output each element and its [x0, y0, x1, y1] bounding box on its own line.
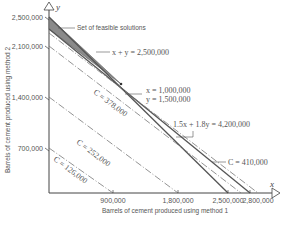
y-ticks: 2,500,000 2,100,000 1,400,000 700,000: [12, 14, 49, 152]
cost126-label: C = 126,000: [52, 154, 89, 185]
y-axis-arrow-icon: [44, 2, 54, 10]
constraint1-label: x + y = 2,500,000: [112, 48, 169, 57]
optimum-x-label: x = 1,000,000: [146, 86, 191, 95]
cost252-label: C = 252,000: [75, 137, 112, 168]
x-tick-label: 2,800,000: [242, 197, 273, 204]
y-tick-label: 2,100,000: [12, 43, 43, 50]
x-tick-label: 1,800,000: [162, 197, 193, 204]
y-tick-label: 2,500,000: [12, 14, 43, 21]
y-axis-title: Barrels of cement produced using method …: [4, 47, 12, 173]
constraint-line-1: [49, 17, 228, 193]
x-tick-label: 2,500,000: [212, 197, 243, 204]
x-axis-symbol: x: [269, 179, 274, 189]
x-tick-label: 900,000: [100, 197, 125, 204]
optimum-point: [120, 83, 123, 86]
x-ticks: 900,000 1,800,000 2,500,000 2,800,000: [100, 190, 273, 204]
cost410-label: C = 410,000: [228, 158, 268, 167]
iso-cost-410000: [49, 33, 258, 193]
y-tick-label: 700,000: [18, 145, 43, 152]
x-axis-title: Barrels of cement produced using method …: [102, 207, 228, 215]
optimum-y-label: y = 1,500,000: [146, 95, 191, 104]
feasible-label: Set of feasible solutions: [77, 24, 146, 31]
constraint2-label: 1.5x + 1.8y = 4,200,000: [173, 120, 250, 129]
chart: 2,500,000 2,100,000 1,400,000 700,000 90…: [0, 0, 283, 232]
y-axis-symbol: y: [55, 2, 60, 12]
iso-cost-252000: [49, 97, 178, 193]
y-tick-label: 1,400,000: [12, 94, 43, 101]
